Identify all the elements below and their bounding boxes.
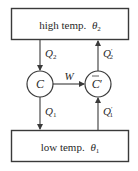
q2-label: Q2 [45, 47, 57, 61]
low-temp-label: low temp. θ1 [41, 141, 100, 155]
engine-c-bar-prime-label: C′ [92, 77, 103, 91]
q1-prime-label: Q′1 [103, 105, 113, 119]
engine-c-bar-prime: C′ [85, 71, 111, 97]
q1-prime-flow: Q′1 [98, 98, 113, 130]
q1-flow: Q1 [40, 97, 57, 129]
q2-prime-flow: Q′2 [98, 41, 113, 71]
q2-prime-label: Q′2 [103, 47, 113, 61]
work-flow: W [53, 70, 84, 84]
high-temp-reservoir: high temp. θ2 [12, 9, 129, 40]
high-temp-label: high temp. θ2 [39, 19, 101, 33]
engine-c: C [27, 71, 53, 97]
engine-c-label: C [36, 77, 45, 91]
q2-flow: Q2 [40, 40, 57, 70]
work-label: W [64, 70, 74, 82]
low-temp-reservoir: low temp. θ1 [12, 131, 129, 162]
diagram-canvas: high temp. θ2 low temp. θ1 C C′ Q2 Q1 Q′… [0, 0, 138, 171]
q1-label: Q1 [45, 105, 57, 119]
